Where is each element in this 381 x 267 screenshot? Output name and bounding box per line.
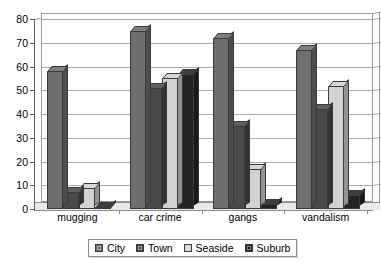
bar-front-face	[213, 38, 229, 209]
bar-front-face	[47, 71, 63, 209]
x-axis-category-label: vandalism	[284, 212, 367, 223]
legend-swatch-icon	[245, 244, 253, 252]
legend-label: Town	[148, 243, 173, 254]
legend-item-city[interactable]: City	[95, 243, 125, 254]
bar-suburb-mugging	[95, 207, 111, 209]
x-axis-category-label: car crime	[119, 212, 202, 223]
legend-label: Suburb	[257, 243, 291, 254]
x-axis-category-label: gangs	[202, 212, 285, 223]
bar-city-gangs	[213, 38, 229, 209]
plot-area: 01020304050607080 muggingcar crimegangsv…	[0, 0, 381, 228]
bar-front-face	[130, 31, 146, 209]
legend-swatch-icon	[136, 244, 144, 252]
bar-city-car-crime	[130, 31, 146, 209]
bar-chart: 01020304050607080 muggingcar crimegangsv…	[0, 0, 381, 267]
bar-front-face	[296, 50, 312, 209]
legend-item-suburb[interactable]: Suburb	[245, 243, 291, 254]
legend-swatch-icon	[184, 244, 192, 252]
bar-city-mugging	[47, 71, 63, 209]
legend-item-town[interactable]: Town	[136, 243, 173, 254]
legend-label: Seaside	[196, 243, 234, 254]
legend-label: City	[107, 243, 125, 254]
legend-item-seaside[interactable]: Seaside	[184, 243, 234, 254]
bars-layer	[0, 0, 381, 228]
bar-city-vandalism	[296, 50, 312, 209]
chart-legend: CityTownSeasideSuburb	[88, 239, 297, 257]
bar-suburb-gangs	[261, 204, 277, 209]
x-axis-tick	[367, 210, 368, 214]
legend-swatch-icon	[95, 244, 103, 252]
x-axis-category-label: mugging	[36, 212, 119, 223]
